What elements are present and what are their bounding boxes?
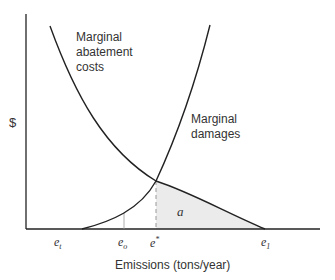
md-label-line1: Marginal xyxy=(191,112,240,127)
mac-label-line2: abatement xyxy=(76,45,133,60)
mac-label-line3: costs xyxy=(76,60,133,75)
mac-label-line1: Marginal xyxy=(76,30,133,45)
tick-e1: e1 xyxy=(261,235,270,251)
y-axis-label: $ xyxy=(9,115,16,130)
md-label: Marginal damages xyxy=(191,112,240,142)
tick-et: et xyxy=(54,235,62,251)
tick-estar: e* xyxy=(150,235,159,251)
tick-eo: eo xyxy=(118,235,127,251)
tick-estar-sup: * xyxy=(155,235,159,244)
chart-plot xyxy=(0,0,335,280)
md-label-line2: damages xyxy=(191,127,240,142)
tick-eo-sub: o xyxy=(123,242,127,251)
mac-label: Marginal abatement costs xyxy=(76,30,133,75)
x-axis-label: Emissions (tons/year) xyxy=(115,258,230,273)
tick-et-sub: t xyxy=(59,242,61,251)
chart: Marginal abatement costs Marginal damage… xyxy=(0,0,335,280)
tick-e1-sub: 1 xyxy=(266,242,270,251)
area-a-label: a xyxy=(177,204,184,219)
